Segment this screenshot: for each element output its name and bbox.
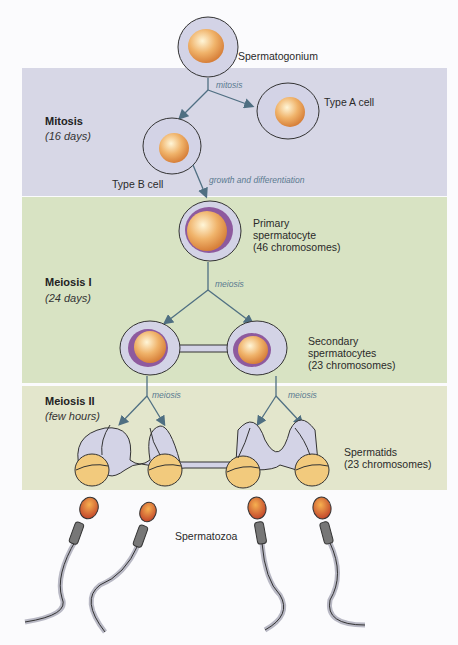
process-meiosis-i: meiosis [215,279,244,289]
secondary-spermatocyte-cells [120,321,287,375]
sperm-4 [311,496,365,625]
spermatids-label: Spermatids (23 chromosomes) [344,446,432,470]
primary-spermatocyte-cell [179,201,241,261]
primary-spermatocyte-label: Primary spermatocyte (46 chromosomes) [253,217,341,253]
process-growth: growth and differentiation [209,175,304,185]
secondary-line-3: (23 chromosomes) [308,359,396,371]
stage-mitosis-label: Mitosis [45,115,83,127]
sperm-2 [91,500,159,632]
spermatozoa-label: Spermatozoa [175,530,237,542]
process-mitosis: mitosis [216,80,242,90]
spermatogonium-label: Spermatogonium [238,50,318,62]
secondary-spermatocytes-label: Secondary spermatocytes (23 chromosomes) [308,335,396,371]
stage-meiosis-i-label: Meiosis I [45,276,91,288]
spermatid-cells [75,420,329,488]
primary-line-3: (46 chromosomes) [253,241,341,253]
type-a-cell [257,83,319,139]
stage-meiosis-ii-duration: (few hours) [45,410,100,422]
type-b-cell-label: Type B cell [112,178,163,190]
type-b-cell [143,118,201,174]
secondary-line-2: spermatocytes [308,347,396,359]
type-a-cell-label: Type A cell [324,96,374,108]
secondary-line-1: Secondary [308,335,396,347]
stage-meiosis-ii-label: Meiosis II [45,395,95,407]
process-meiosis-ii-right: meiosis [288,390,317,400]
spermatids-line-2: (23 chromosomes) [344,458,432,470]
stage-meiosis-i-duration: (24 days) [45,292,91,304]
primary-line-2: spermatocyte [253,229,341,241]
sperm-3 [246,496,283,630]
spermatogonium-cell [178,17,238,77]
stage-mitosis-duration: (16 days) [45,130,91,142]
process-meiosis-ii-left: meiosis [152,390,181,400]
spermatids-line-1: Spermatids [344,446,432,458]
primary-line-1: Primary [253,217,341,229]
spermatozoa [25,495,365,632]
spermatogenesis-illustration [0,0,458,645]
